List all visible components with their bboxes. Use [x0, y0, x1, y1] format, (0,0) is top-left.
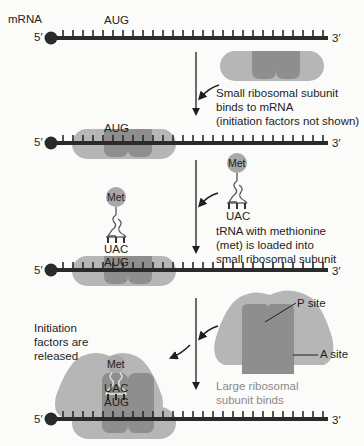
- a-site-label: A site: [320, 348, 348, 362]
- three-prime-label-1: 3′: [332, 32, 341, 46]
- curved-arrow-4: [173, 345, 190, 357]
- mrna-label: mRNA: [8, 13, 42, 27]
- five-prime-label-3: 5′: [34, 264, 43, 278]
- translation-initiation-diagram: [0, 0, 364, 446]
- anticodon-label-assembled: UAC: [104, 382, 128, 396]
- trna-free: [227, 173, 247, 209]
- small-subunit-free: [220, 51, 324, 81]
- trna-loaded: [106, 207, 126, 243]
- curved-arrow-2: [201, 193, 218, 204]
- met-label-assembled: Met: [107, 358, 125, 372]
- p-site-label: P site: [297, 297, 326, 311]
- step2-caption-line3: small ribosomal subunit: [216, 253, 336, 267]
- step2-caption-line1: tRNA with methionine: [216, 225, 326, 239]
- curved-arrow-3: [201, 326, 218, 337]
- step2-caption-line2: (met) is loaded into: [216, 239, 314, 253]
- start-codon-label-4: AUG: [104, 396, 129, 410]
- step1-caption-line2: binds to mRNA: [216, 101, 293, 115]
- start-codon-label-3: AUG: [104, 256, 129, 270]
- step3-caption-line1: Initiation: [34, 322, 77, 336]
- met-label-loaded: Met: [107, 191, 125, 205]
- step1-caption-line1: Small ribosomal subunit: [216, 87, 338, 101]
- five-prime-label-1: 5′: [34, 31, 43, 45]
- three-prime-label-4: 3′: [332, 414, 341, 428]
- anticodon-label-free: UAC: [226, 210, 250, 224]
- step3-caption-line2: factors are: [34, 336, 88, 350]
- mrna-strand-1: [45, 30, 329, 45]
- large-subunit-caption-line2: subunit binds: [216, 394, 284, 408]
- three-prime-label-2: 3′: [332, 137, 341, 151]
- large-subunit-caption-line1: Large ribosomal: [216, 380, 298, 394]
- five-prime-label-4: 5′: [34, 413, 43, 427]
- step1-caption-line3: (initiation factors not shown): [216, 115, 359, 129]
- three-prime-label-3: 3′: [332, 265, 341, 279]
- start-codon-label-1: AUG: [104, 14, 129, 28]
- met-label-free: Met: [228, 157, 246, 171]
- five-prime-label-2: 5′: [34, 136, 43, 150]
- start-codon-label-2: AUG: [104, 122, 129, 136]
- anticodon-label-loaded: UAC: [104, 243, 128, 257]
- step3-caption-line3: released: [34, 350, 78, 364]
